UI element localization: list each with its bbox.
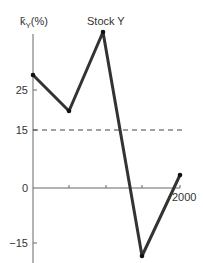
chart-title: Stock Y xyxy=(87,15,125,27)
y-tick-label-0: 0 xyxy=(22,182,28,194)
y-ticks xyxy=(33,90,37,243)
x-tick-label-2000: 2000 xyxy=(172,191,196,203)
series-line-stock-y xyxy=(33,32,180,256)
y-tick-label-25: 25 xyxy=(16,84,28,96)
y-axis-label: k̄Y(%) xyxy=(20,15,48,30)
y-tick-label-15: 15 xyxy=(16,124,28,136)
y-tick-label-neg15: −15 xyxy=(9,237,28,249)
series-points xyxy=(31,30,183,259)
chart: 25 15 0 −15 2000 k̄Y(%) Stock Y xyxy=(0,0,203,263)
